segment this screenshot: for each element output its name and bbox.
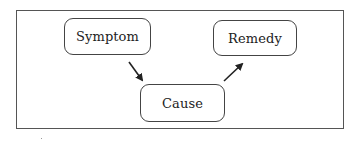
node-cause: Cause: [140, 84, 225, 122]
node-symptom: Symptom: [64, 18, 151, 55]
node-remedy: Remedy: [213, 20, 297, 56]
node-remedy-label: Remedy: [228, 31, 282, 46]
node-cause-label: Cause: [162, 96, 203, 111]
node-symptom-label: Symptom: [76, 29, 139, 44]
stray-mark: [41, 138, 42, 139]
